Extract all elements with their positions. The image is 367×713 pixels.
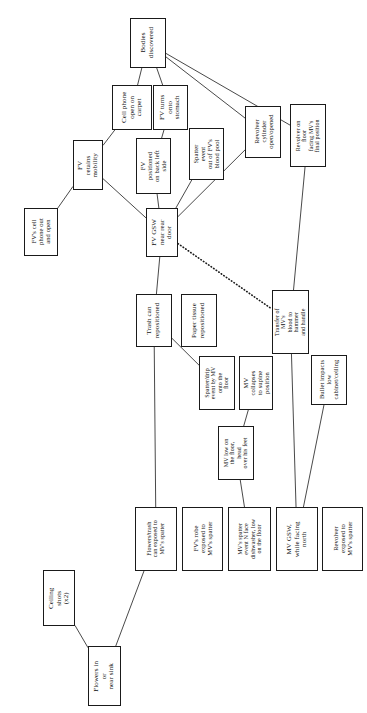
node-label: MV collapses to supine position (242, 367, 270, 399)
node-fv_positioned_back[interactable]: FV positioned on back left side (136, 138, 171, 194)
node-mv_spatter_dishwasher[interactable]: MV's spatter event N face dishwasher, lo… (228, 507, 271, 571)
edge-spatter_fv_blood_pool-to-fv_gsw_rear_door (176, 180, 192, 208)
node-mv_gsw_facing_north[interactable]: MV GSW, while facing north (276, 507, 318, 571)
diagram-canvas: Bodies discoveredCell phone open on carp… (0, 0, 367, 713)
edge-ceiling_shots-to-flowers_near_sink (75, 625, 88, 647)
node-label: FV's robe exposed to MV's spatter (192, 519, 213, 558)
node-flowers_near_sink[interactable]: Flowers in or near sink (88, 646, 121, 706)
edge-fv_turns_stomach-to-fv_positioned_back (162, 130, 164, 138)
node-trash_can_repositioned[interactable]: Trash can repositioned (136, 294, 172, 347)
node-label: Revolver exposed to MV's spatter (332, 519, 353, 558)
node-label: MV GSW, while facing north (286, 519, 309, 559)
node-label: FV positioned on back left side (139, 150, 167, 183)
edge-transfer_mv_blood-to-mv_gsw_facing_north (291, 354, 296, 507)
node-cell_phone_carpet[interactable]: Cell phone open on carpet (112, 85, 152, 130)
edge-flowers_near_sink-to-flowers_trash_can (116, 571, 144, 646)
node-label: Spatter event out of FV's blood pool (192, 138, 220, 171)
node-ceiling_shots[interactable]: Ceiling shots (x2) (43, 570, 75, 626)
node-spatter_fv_blood_pool[interactable]: Spatter event out of FV's blood pool (189, 128, 224, 180)
node-fv_cell_phone_out[interactable]: FV's cell phone out and open (24, 208, 58, 256)
node-bullet_impacts[interactable]: Bullet impacts low cabinet/ceiling (311, 355, 347, 405)
edge-fv_positioned_back-to-fv_gsw_rear_door (157, 194, 159, 208)
node-spatter_drip_mv[interactable]: Spatter/drip event by MV onto the floor (199, 356, 235, 410)
edge-revolver_on_floor-to-transfer_mv_blood (294, 167, 306, 290)
node-paper_tissue_repos[interactable]: Paper tissue repositioned (181, 294, 217, 347)
edge-bodies_discovered-to-cell_phone_carpet (138, 68, 142, 85)
node-label: Revolver cylinder open/opened (252, 115, 273, 149)
node-fv_turns_stomach[interactable]: FV turns onto stomach (153, 85, 188, 130)
node-revolver_on_floor[interactable]: Revolver on floor facing MV's final posi… (290, 104, 326, 167)
node-label: MV's spatter event N face dishwasher, lo… (237, 519, 263, 560)
node-bodies_discovered[interactable]: Bodies discovered (130, 18, 166, 68)
node-label: Flowers/trash can exposed to MV's spatte… (146, 519, 165, 559)
node-label: Spatter/drip event by MV onto the floor (204, 366, 230, 400)
edge-cell_phone_carpet-to-fv_retains_mobility (103, 130, 115, 145)
node-label: Trash can repositioned (146, 303, 161, 339)
node-transfer_mv_blood[interactable]: Transfer of MV's blood to hammer and han… (272, 290, 309, 354)
edge-fv_retains_mobility-to-fv_cell_phone_out (58, 186, 73, 208)
node-label: FV turns onto stomach (159, 91, 182, 124)
node-label: Bodies discovered (140, 26, 155, 60)
node-revolver_cylinder[interactable]: Revolver cylinder open/opened (245, 106, 281, 158)
node-label: Ceiling shots (x2) (48, 583, 71, 613)
edge-fv_gsw_rear_door-to-trash_can_repositioned (156, 257, 159, 294)
node-label: FV GSW near rear door (151, 217, 174, 247)
node-revolver_exposed[interactable]: Revolver exposed to MV's spatter (322, 507, 363, 571)
node-label: Flowers in or near sink (93, 660, 116, 691)
node-label: Transfer of MV's blood to hammer and han… (274, 305, 306, 340)
node-label: FV's cell phone out and open (30, 216, 51, 248)
edge-mv_low_on_floor-to-mv_spatter_dishwasher (240, 480, 244, 507)
node-label: Paper tissue repositioned (191, 303, 206, 339)
node-fv_robe_spatter[interactable]: FV's robe exposed to MV's spatter (182, 507, 223, 571)
edge-mv_collapses_supine-to-mv_low_on_floor (244, 410, 249, 426)
node-label: MV low on the floor, head over his feet (223, 436, 249, 470)
node-label: Bullet impacts low cabinet/ceiling (318, 360, 339, 400)
node-mv_low_on_floor[interactable]: MV low on the floor, head over his feet (218, 426, 254, 480)
node-flowers_trash_can[interactable]: Flowers/trash can exposed to MV's spatte… (135, 507, 177, 571)
node-label: Revolver on floor facing MV's final posi… (295, 119, 321, 153)
node-label: Cell phone open on carpet (121, 88, 144, 126)
node-mv_collapses_supine[interactable]: MV collapses to supine position (239, 356, 273, 410)
node-label: FV retains mobility (77, 151, 100, 179)
node-fv_retains_mobility[interactable]: FV retains mobility (73, 140, 103, 190)
edge-bodies_discovered-to-fv_turns_stomach (157, 68, 163, 85)
edge-bullet_impacts-to-mv_gsw_facing_north (303, 405, 324, 507)
node-fv_gsw_rear_door[interactable]: FV GSW near rear door (146, 208, 178, 257)
edge-trash_can_repositioned-to-flowers_trash_can (154, 347, 155, 507)
